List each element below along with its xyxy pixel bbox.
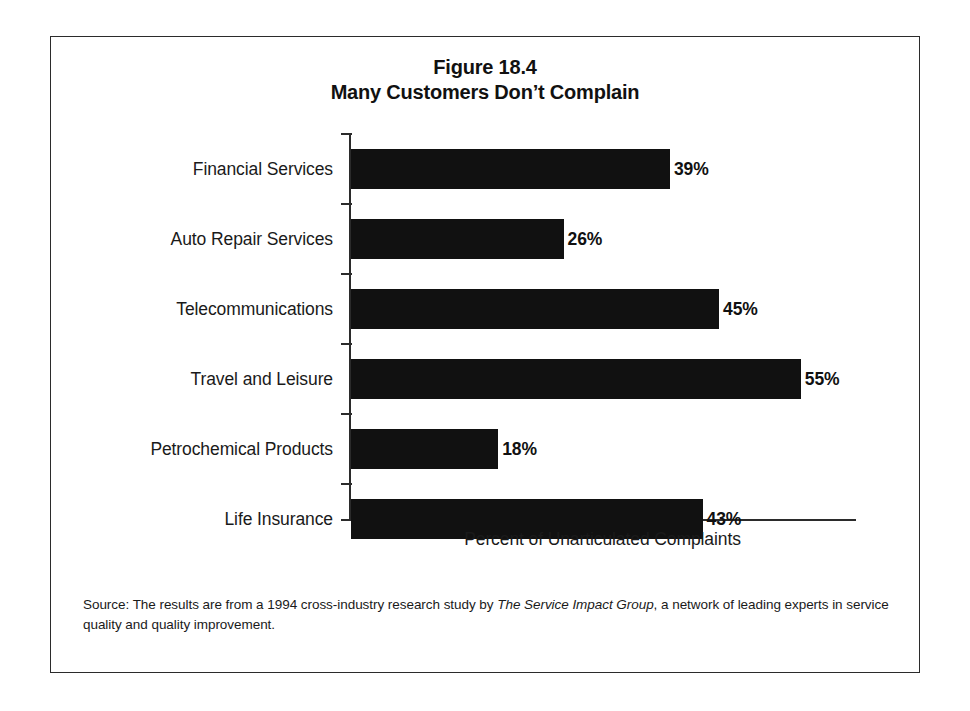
category-label: Financial Services — [193, 159, 333, 180]
bar-group: 26% — [351, 219, 602, 259]
bar-value-label: 55% — [805, 369, 840, 390]
bar-row: Financial Services 39% — [51, 134, 921, 204]
category-label: Life Insurance — [224, 509, 333, 530]
bar-group: 18% — [351, 429, 537, 469]
bar-group: 39% — [351, 149, 709, 189]
bar-value-label: 45% — [723, 299, 758, 320]
category-label: Telecommunications — [176, 299, 333, 320]
bar-row: Telecommunications 45% — [51, 274, 921, 344]
bar-group: 45% — [351, 289, 758, 329]
bar — [351, 429, 498, 469]
category-label: Petrochemical Products — [150, 439, 333, 460]
category-label: Travel and Leisure — [191, 369, 334, 390]
category-label: Auto Repair Services — [171, 229, 333, 250]
figure-frame: Figure 18.4 Many Customers Don’t Complai… — [50, 36, 920, 673]
bar-value-label: 39% — [674, 159, 709, 180]
bar-value-label: 18% — [502, 439, 537, 460]
chart-plot-area: Financial Services 39% Auto Repair Servi… — [51, 37, 921, 674]
bar-row: Travel and Leisure 55% — [51, 344, 921, 414]
source-note-prefix: Source: The results are from a 1994 cros… — [83, 597, 497, 612]
bar — [351, 359, 801, 399]
bar-group: 55% — [351, 359, 840, 399]
source-note: Source: The results are from a 1994 cros… — [83, 595, 889, 635]
bar-value-label: 26% — [568, 229, 603, 250]
bar — [351, 149, 670, 189]
bar-row: Auto Repair Services 26% — [51, 204, 921, 274]
bar — [351, 219, 564, 259]
bar-row: Petrochemical Products 18% — [51, 414, 921, 484]
x-axis-label: Percent of Unarticulated Complaints — [349, 529, 856, 550]
bar — [351, 289, 719, 329]
bar-value-label: 43% — [707, 509, 742, 530]
source-note-organization: The Service Impact Group — [497, 597, 653, 612]
